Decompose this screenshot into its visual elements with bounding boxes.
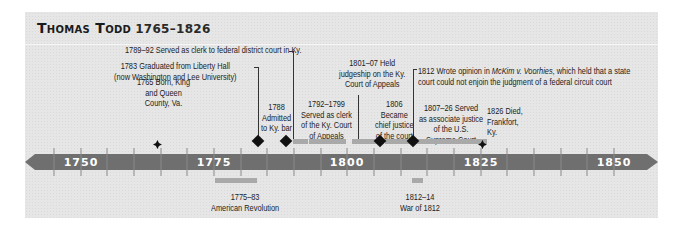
axis-label-1850: 1850 bbox=[597, 156, 632, 169]
title-divider bbox=[25, 44, 658, 45]
timeline-panel: Thomas Todd1765–1826 1789–92 Served as c… bbox=[25, 12, 658, 218]
event-died-label: 1826 Died, Frankfort, Ky. bbox=[487, 106, 523, 138]
connector-graduated-tick bbox=[254, 67, 259, 68]
context-war1812-label: 1812–14 War of 1812 bbox=[400, 192, 440, 213]
connector-clerk-federal-tick bbox=[289, 51, 294, 52]
span-associate-justice bbox=[385, 139, 487, 144]
timeline-axis: 1750 1775 1800 1825 1850 bbox=[25, 154, 658, 170]
span-clerk-appeals bbox=[309, 139, 346, 144]
axis-label-1750: 1750 bbox=[64, 156, 99, 169]
event-mckim-label: 1812 Wrote opinion in McKim v. Voorhies,… bbox=[418, 66, 630, 87]
event-born-label: 1765 Born, King and Queen County, Va. bbox=[137, 77, 190, 109]
connector-graduated bbox=[258, 67, 259, 141]
span-war-of-1812 bbox=[412, 178, 423, 183]
connector-judgeship bbox=[358, 95, 359, 141]
title-years: 1765–1826 bbox=[135, 22, 211, 36]
page-title: Thomas Todd1765–1826 bbox=[37, 20, 211, 36]
connector-clerk-federal bbox=[293, 51, 294, 141]
axis-label-1800: 1800 bbox=[330, 156, 365, 169]
context-revolution-label: 1775–83 American Revolution bbox=[211, 192, 279, 213]
event-judgeship-label: 1801–07 Held judgeship on the Ky. Court … bbox=[339, 58, 405, 90]
axis-label-1825: 1825 bbox=[464, 156, 499, 169]
title-name: Thomas Todd bbox=[37, 20, 131, 36]
event-clerk-federal-label: 1789–92 Served as clerk to federal distr… bbox=[125, 45, 302, 56]
graduated-marker-icon bbox=[252, 135, 265, 148]
admitted-marker-icon bbox=[280, 135, 293, 148]
span-clerk-federal bbox=[293, 139, 308, 144]
event-admitted-label: 1788 Admitted to Ky. bar bbox=[261, 102, 292, 134]
birth-marker-icon bbox=[155, 135, 168, 148]
axis-label-1775: 1775 bbox=[197, 156, 232, 169]
connector-mckim bbox=[413, 69, 414, 141]
connector-mckim-tick bbox=[413, 69, 417, 70]
span-american-revolution bbox=[215, 178, 257, 183]
event-clerk-appeals-label: 1792–1799 Served as clerk of the Ky. Cou… bbox=[301, 99, 352, 141]
